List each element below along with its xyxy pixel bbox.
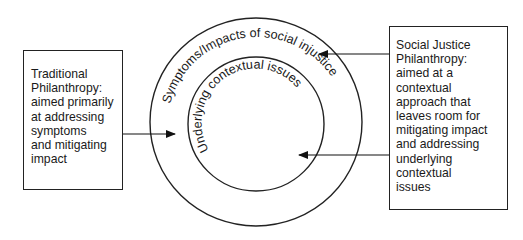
right-box-line: leaves room for bbox=[396, 109, 507, 123]
right-box-line: Philanthropy: bbox=[396, 52, 507, 66]
right-box-line: approach that bbox=[396, 95, 507, 109]
inner-circle bbox=[188, 57, 324, 191]
right-box-line: underlying bbox=[396, 152, 507, 166]
left-box-line: and mitigating bbox=[31, 138, 122, 152]
right-box-line: mitigating impact bbox=[396, 123, 507, 137]
right-box-line: aimed at a bbox=[396, 66, 507, 80]
left-box-line: Philanthropy: bbox=[31, 81, 122, 95]
left-box-line: impact bbox=[31, 152, 122, 166]
left-box-line: Traditional bbox=[31, 67, 122, 81]
right-box-line: and addressing bbox=[396, 137, 507, 151]
right-box-line: Social Justice bbox=[396, 38, 507, 52]
left-box-line: aimed primarily bbox=[31, 95, 122, 109]
left-box-line: symptoms bbox=[31, 124, 122, 138]
outer-circle bbox=[150, 18, 362, 226]
traditional-philanthropy-box: Traditional Philanthropy: aimed primaril… bbox=[23, 50, 123, 190]
inner-circle-label: Underlying contextual issues bbox=[190, 57, 305, 155]
right-box-line: contextual bbox=[396, 81, 507, 95]
left-box-line: at addressing bbox=[31, 110, 122, 124]
right-box-line: issues bbox=[396, 180, 507, 194]
right-box-line: contextual bbox=[396, 166, 507, 180]
social-justice-philanthropy-box: Social Justice Philanthropy: aimed at a … bbox=[389, 26, 508, 210]
